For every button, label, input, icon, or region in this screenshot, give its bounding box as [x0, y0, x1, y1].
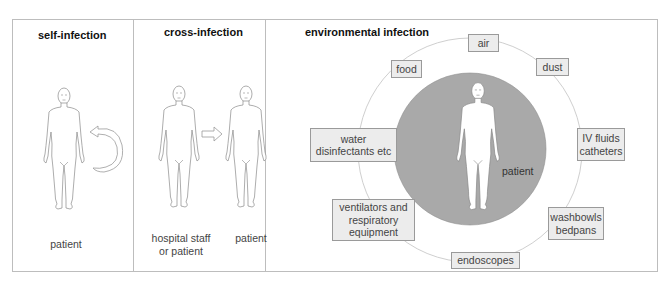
source-box-iv-fluids: IV fluids catheters	[577, 128, 625, 161]
source-dust-label: dust	[543, 61, 563, 74]
curved-arrow-icon	[90, 126, 123, 172]
source-water-label-line2: disinfectants etc	[316, 145, 391, 158]
hospital-staff-label-line1: hospital staff	[150, 232, 212, 245]
cross-patient-figure	[226, 86, 267, 207]
source-iv-label-line1: IV fluids	[582, 132, 619, 145]
source-air-label: air	[478, 37, 490, 50]
hospital-staff-figure	[159, 86, 200, 207]
self-patient-label: patient	[48, 238, 84, 251]
source-iv-label-line2: catheters	[579, 145, 622, 158]
source-ventilators-label-line2: respiratory	[349, 214, 399, 227]
right-arrow-icon	[202, 127, 222, 141]
source-box-food: food	[391, 60, 422, 78]
source-box-ventilators: ventilators and respiratory equipment	[332, 199, 415, 241]
source-ventilators-label-line1: ventilators and	[339, 201, 407, 214]
source-endoscopes-label: endoscopes	[457, 254, 514, 267]
environment-patient-label: patient	[502, 165, 534, 178]
source-food-label: food	[396, 63, 416, 76]
hospital-staff-label-line2: or patient	[150, 245, 212, 258]
source-washbowls-label-line2: bedpans	[556, 224, 596, 237]
source-washbowls-label-line1: washbowls	[550, 211, 601, 224]
source-box-air: air	[468, 34, 499, 52]
source-box-washbowls: washbowls bedpans	[548, 207, 604, 240]
hospital-staff-label: hospital staff or patient	[150, 232, 212, 258]
source-box-water: water disinfectants etc	[310, 128, 397, 162]
self-infection-figure	[44, 88, 85, 209]
source-box-endoscopes: endoscopes	[451, 252, 520, 269]
cross-patient-label: patient	[233, 232, 269, 245]
source-water-label-line1: water	[341, 133, 367, 146]
source-ventilators-label-line3: equipment	[349, 226, 398, 239]
source-box-dust: dust	[536, 58, 569, 76]
